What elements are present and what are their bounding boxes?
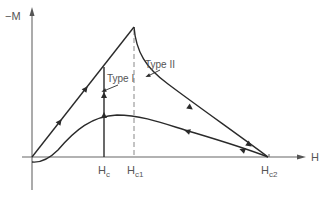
magnetization-diagram: −M H Type I Type II Hc Hc1 [0,0,328,198]
type2-label: Type II [145,59,175,70]
arrow-icon [186,104,194,112]
type1-annotation: Type I [101,73,135,94]
svg-text:Hc: Hc [98,164,110,179]
tick-label-hc1: Hc1 [127,164,144,179]
x-axis-label: H [311,151,319,163]
x-axis-arrow-icon [297,155,306,160]
arrow-icon [183,127,191,135]
tick-label-hc2: Hc2 [261,164,278,179]
y-axis-arrow-icon [30,7,35,16]
type2-curve [134,27,268,157]
hump-curve [32,115,268,162]
tick-label-hc: Hc [98,164,110,179]
meissner-line [32,27,134,157]
arrow-icon [101,92,107,98]
type1-label: Type I [107,73,134,84]
y-axis: −M [5,7,35,190]
type2-annotation: Type II [145,59,175,79]
y-axis-label: −M [5,10,21,22]
svg-text:Hc1: Hc1 [127,164,144,179]
svg-text:Hc2: Hc2 [261,164,278,179]
x-axis: H [22,151,319,163]
